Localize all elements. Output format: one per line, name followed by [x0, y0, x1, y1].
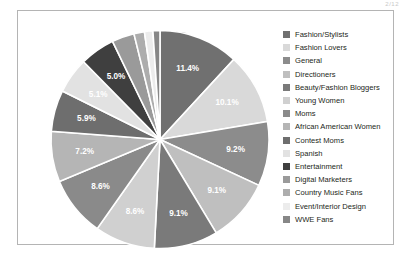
legend-item[interactable]: General	[283, 54, 405, 67]
legend-swatch-icon	[283, 71, 290, 78]
legend-item-label: Digital Marketers	[295, 175, 352, 184]
legend-swatch-icon	[283, 44, 290, 51]
pie-slice-label: 11.4%	[176, 64, 199, 73]
legend-item-label: Fashion/Stylists	[295, 30, 348, 39]
legend-item[interactable]: Country Music Fans	[283, 186, 405, 199]
legend-item[interactable]: Contest Moms	[283, 134, 405, 147]
legend-item[interactable]: Fashion Lovers	[283, 41, 405, 54]
pie-slice-label: 5.9%	[77, 114, 96, 123]
legend-swatch-icon	[283, 216, 290, 223]
legend-item[interactable]: Fashion/Stylists	[283, 28, 405, 41]
legend-swatch-icon	[283, 137, 290, 144]
pie-plot-area: 11.4%10.1%9.2%9.1%9.1%8.6%8.6%7.2%5.9%5.…	[48, 29, 272, 250]
legend-swatch-icon	[283, 203, 290, 210]
legend-swatch-icon	[283, 110, 290, 117]
legend-swatch-icon	[283, 97, 290, 104]
legend-item[interactable]: Moms	[283, 107, 405, 120]
legend-item[interactable]: Beauty/Fashion Bloggers	[283, 81, 405, 94]
pie-slice-label: 8.6%	[91, 182, 110, 191]
legend-swatch-icon	[283, 163, 290, 170]
legend-item-label: African American Women	[295, 122, 381, 131]
pie-svg: 11.4%10.1%9.2%9.1%9.1%8.6%8.6%7.2%5.9%5.…	[48, 29, 272, 250]
legend-item-label: WWE Fans	[295, 215, 333, 224]
corner-artifact-text: 2/12	[385, 0, 399, 8]
legend-item[interactable]: Directioners	[283, 68, 405, 81]
legend-swatch-icon	[283, 31, 290, 38]
legend-item-label: Young Women	[295, 96, 344, 105]
legend-item-label: Event/Interior Design	[295, 202, 366, 211]
legend-item-label: Moms	[295, 109, 316, 118]
legend-item[interactable]: Young Women	[283, 94, 405, 107]
legend-item-label: Country Music Fans	[295, 188, 363, 197]
legend-swatch-icon	[283, 150, 290, 157]
legend-item-label: Entertainment	[295, 162, 342, 171]
pie-slice-label: 5.1%	[89, 90, 108, 99]
legend-swatch-icon	[283, 84, 290, 91]
legend-swatch-icon	[283, 123, 290, 130]
legend-item-label: Directioners	[295, 70, 336, 79]
legend-swatch-icon	[283, 176, 290, 183]
pie-slice-label: 8.6%	[126, 207, 145, 216]
legend-item-label: Fashion Lovers	[295, 43, 347, 52]
legend-item[interactable]: Entertainment	[283, 160, 405, 173]
legend-item[interactable]: African American Women	[283, 120, 405, 133]
chart-frame: 11.4%10.1%9.2%9.1%9.1%8.6%8.6%7.2%5.9%5.…	[17, 10, 394, 245]
pie-slice-label: 10.1%	[215, 98, 239, 107]
chart-legend: Fashion/StylistsFashion LoversGeneralDir…	[283, 28, 405, 226]
legend-item-label: General	[295, 56, 322, 65]
pie-slice-label: 9.2%	[226, 145, 245, 154]
legend-item[interactable]: Event/Interior Design	[283, 199, 405, 212]
legend-item[interactable]: Spanish	[283, 147, 405, 160]
legend-item-label: Spanish	[295, 149, 322, 158]
legend-item-label: Beauty/Fashion Bloggers	[295, 83, 380, 92]
pie-slices	[51, 30, 269, 248]
legend-swatch-icon	[283, 189, 290, 196]
legend-swatch-icon	[283, 57, 290, 64]
pie-chart-figure: 2/12 11.4%10.1%9.2%9.1%9.1%8.6%8.6%7.2%5…	[0, 0, 405, 260]
pie-slice-label: 7.2%	[75, 147, 94, 156]
legend-item-label: Contest Moms	[295, 136, 344, 145]
legend-item[interactable]: WWE Fans	[283, 213, 405, 226]
pie-slice-label: 9.1%	[169, 209, 188, 218]
legend-item[interactable]: Digital Marketers	[283, 173, 405, 186]
pie-slice-label: 9.1%	[207, 186, 226, 195]
pie-slice-label: 5.0%	[107, 72, 126, 81]
